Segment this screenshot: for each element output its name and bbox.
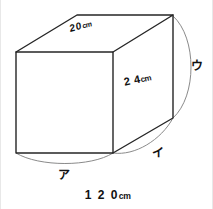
front-face (16, 52, 113, 153)
total-length-unit: cm (119, 191, 130, 201)
arc-a (16, 153, 113, 164)
arc-u (173, 16, 191, 118)
total-length-caption: 1 2 0cm (1, 189, 213, 201)
arc-label-a: ア (58, 169, 70, 181)
total-length-value: 1 2 0 (85, 188, 119, 202)
prism-drawing (1, 0, 213, 209)
arc-label-i: イ (152, 147, 164, 159)
arc-label-u: ウ (191, 60, 203, 72)
geometry-figure: 20cm 2 4cm ア イ ウ 1 2 0cm (0, 0, 213, 209)
